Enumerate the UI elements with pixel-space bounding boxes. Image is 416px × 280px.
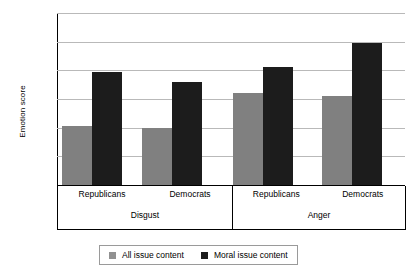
category-group-disgust: RepublicansDemocratsDisgust (57, 186, 233, 230)
legend-item-all-issue-content: All issue content (109, 251, 184, 260)
bar-all-issue-content-1 (142, 128, 172, 185)
plot-area: 00.511.522.53 (57, 13, 405, 185)
legend-label-all: All issue content (122, 251, 184, 260)
chart-legend: All issue content Moral issue content (99, 245, 298, 265)
bar-moral-issue-content-1 (172, 82, 202, 185)
legend-swatch-icon-all (109, 252, 116, 259)
bar-moral-issue-content-0 (92, 72, 122, 185)
group-label-disgust: Disgust (58, 210, 232, 220)
category-axis: RepublicansDemocratsDisgustRepublicansDe… (57, 186, 406, 230)
bar-moral-issue-content-3 (352, 43, 382, 185)
legend-label-moral: Moral issue content (214, 251, 288, 260)
y-axis-title: Emotion score (18, 52, 27, 172)
gridline-3 (57, 13, 405, 14)
legend-item-moral-issue-content: Moral issue content (201, 251, 288, 260)
bar-all-issue-content-0 (62, 126, 92, 185)
bar-moral-issue-content-2 (263, 67, 293, 185)
category-label-republicans: Republicans (233, 189, 320, 199)
category-label-democrats: Democrats (146, 189, 234, 199)
category-label-republicans: Republicans (58, 189, 146, 199)
group-label-anger: Anger (233, 210, 405, 220)
bar-all-issue-content-3 (322, 96, 352, 185)
bar-all-issue-content-2 (233, 93, 263, 185)
bar-chart: Emotion score 00.511.522.53 RepublicansD… (0, 0, 416, 280)
legend-swatch-icon-moral (201, 252, 208, 259)
category-group-anger: RepublicansDemocratsAnger (233, 186, 406, 230)
category-label-democrats: Democrats (320, 189, 407, 199)
